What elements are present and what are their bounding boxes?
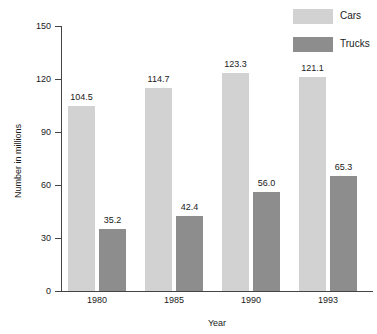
bar-cars-1980 [68, 106, 95, 291]
bar-cars-1990 [222, 73, 249, 291]
legend-item-cars: Cars [293, 8, 377, 24]
bar-value-label: 121.1 [293, 64, 332, 73]
legend-label-cars: Cars [340, 11, 361, 21]
bar-trucks-1993 [330, 176, 357, 291]
bar-value-label: 104.5 [62, 93, 101, 102]
legend-label-trucks: Trucks [340, 39, 370, 49]
y-axis-tick-label: 60 [11, 181, 51, 190]
bar-value-label: 42.4 [170, 203, 209, 212]
bar-chart: Cars Trucks Number in millions Year 0306… [0, 0, 377, 334]
y-axis-tick [55, 79, 61, 80]
bar-value-label: 65.3 [324, 163, 363, 172]
x-axis-line [61, 291, 373, 292]
bar-cars-1993 [299, 77, 326, 291]
bar-value-label: 114.7 [139, 75, 178, 84]
y-axis-tick-label: 0 [11, 287, 51, 296]
y-axis-tick-label: 90 [11, 128, 51, 137]
bar-trucks-1980 [99, 229, 126, 291]
y-axis-tick-label: 30 [11, 234, 51, 243]
x-axis-title: Year [61, 318, 373, 328]
y-axis-tick [55, 291, 61, 292]
bar-value-label: 35.2 [93, 216, 132, 225]
y-axis-title: Number in millions [13, 86, 23, 236]
y-axis-tick-label: 150 [11, 22, 51, 31]
bar-value-label: 123.3 [216, 60, 255, 69]
x-axis-tick-label-1993: 1993 [289, 296, 367, 305]
y-axis-tick-label: 120 [11, 75, 51, 84]
y-axis-line [61, 26, 62, 292]
legend-item-trucks: Trucks [293, 36, 377, 52]
x-axis-tick-label-1980: 1980 [58, 296, 136, 305]
x-axis-tick-label-1985: 1985 [135, 296, 213, 305]
y-axis-tick [55, 238, 61, 239]
y-axis-tick [55, 132, 61, 133]
bar-value-label: 56.0 [247, 179, 286, 188]
legend-swatch-trucks [293, 37, 333, 52]
chart-legend: Cars Trucks [293, 8, 377, 64]
bar-trucks-1985 [176, 216, 203, 291]
bar-trucks-1990 [253, 192, 280, 291]
x-axis-tick-label-1990: 1990 [212, 296, 290, 305]
legend-swatch-cars [293, 9, 333, 24]
y-axis-tick [55, 26, 61, 27]
bar-cars-1985 [145, 88, 172, 291]
y-axis-tick [55, 185, 61, 186]
